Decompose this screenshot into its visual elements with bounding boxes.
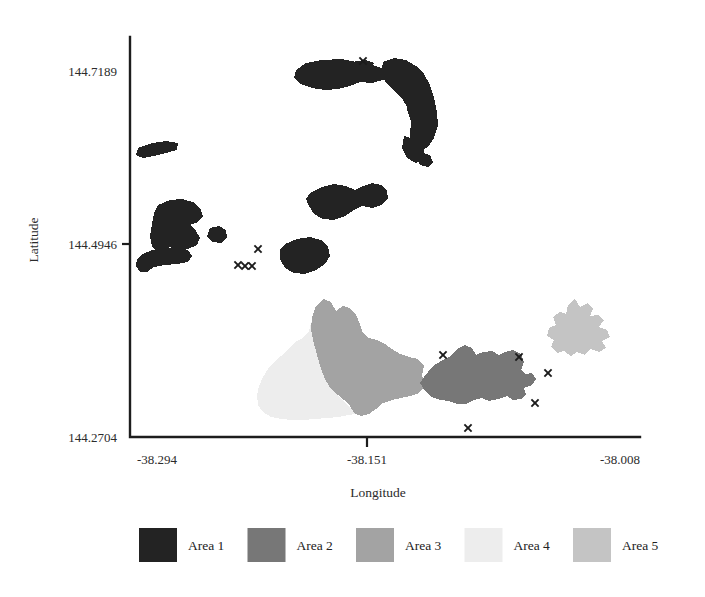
legend-label: Area 4 [514,538,551,553]
y-tick-label-top: 144.7189 [68,64,117,79]
y-tick-label-bottom: 144.2704 [68,430,117,445]
legend-swatch [573,528,611,562]
legend-label: Area 1 [188,538,224,553]
x-tick-label-right: -38.008 [600,452,640,467]
legend-swatch [465,528,503,562]
y-axis-title: Latitude [26,218,41,263]
legend-label: Area 3 [405,538,442,553]
x-tick-label-middle: -38.151 [347,452,387,467]
x-axis-title: Longitude [350,485,406,500]
legend-swatch [248,528,286,562]
legend-label: Area 5 [622,538,659,553]
map-plot-svg: 144.7189 144.4946 144.2704 -38.294 -38.1… [0,0,705,597]
x-tick-label-left: -38.294 [137,452,178,467]
legend-swatch [139,528,177,562]
map-figure: 144.7189 144.4946 144.2704 -38.294 -38.1… [0,0,705,597]
legend-swatch [356,528,394,562]
y-tick-label-middle: 144.4946 [68,237,117,252]
figure-background [0,0,705,597]
legend-label: Area 2 [297,538,333,553]
